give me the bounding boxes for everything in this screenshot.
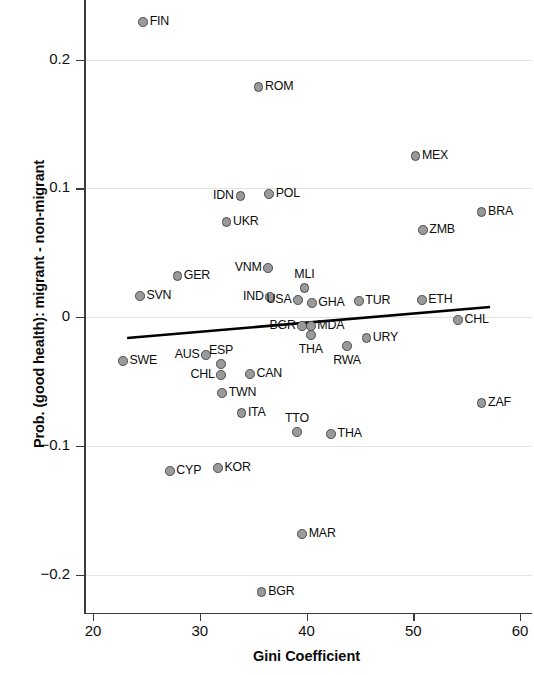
scatter-point bbox=[217, 388, 227, 398]
y-tick-label: −0.1 bbox=[0, 436, 70, 453]
scatter-point-label: KOR bbox=[224, 460, 250, 474]
scatter-point bbox=[362, 333, 372, 343]
scatter-point-label: TUR bbox=[365, 293, 390, 307]
scatter-point-label: AUS bbox=[175, 346, 200, 360]
x-axis-title: Gini Coefficient bbox=[93, 648, 520, 664]
y-axis-line bbox=[84, 0, 86, 614]
scatter-point-label: MEX bbox=[422, 148, 448, 162]
scatter-point-label: BRA bbox=[488, 203, 513, 217]
scatter-point bbox=[257, 587, 267, 597]
scatter-point-label: POL bbox=[276, 185, 300, 199]
scatter-point bbox=[453, 315, 463, 325]
scatter-point-label: CYP bbox=[176, 462, 201, 476]
scatter-point-label: IND bbox=[243, 289, 264, 303]
scatter-point-label: CHL bbox=[465, 311, 489, 325]
scatter-point bbox=[135, 291, 145, 301]
scatter-point bbox=[477, 207, 487, 217]
gridline bbox=[85, 446, 532, 447]
scatter-point-label: ROM bbox=[265, 79, 293, 93]
x-tick-mark bbox=[200, 613, 201, 621]
scatter-point-label: MLI bbox=[294, 267, 314, 281]
x-tick-mark bbox=[307, 613, 308, 621]
scatter-point bbox=[173, 271, 183, 281]
scatter-point bbox=[307, 298, 317, 308]
scatter-point-label: CAN bbox=[256, 366, 282, 380]
scatter-point-label: VNM bbox=[235, 259, 262, 273]
scatter-point-label: FIN bbox=[150, 14, 169, 28]
scatter-point-label: ESP bbox=[209, 343, 233, 357]
scatter-point-label: SWE bbox=[129, 353, 157, 367]
scatter-point bbox=[292, 427, 302, 437]
scatter-plot-figure: Prob. (good health): migrant - non-migra… bbox=[0, 0, 534, 675]
scatter-point bbox=[237, 408, 247, 418]
scatter-point-label: ZMB bbox=[429, 221, 455, 235]
y-tick-label: 0.2 bbox=[0, 50, 70, 67]
y-tick-label: 0 bbox=[0, 307, 70, 324]
x-axis-line bbox=[84, 613, 532, 615]
scatter-point-label: SVN bbox=[146, 288, 171, 302]
x-tick-mark bbox=[93, 613, 94, 621]
scatter-point bbox=[138, 17, 148, 27]
scatter-point bbox=[300, 283, 310, 293]
scatter-point-label: MDA bbox=[317, 318, 344, 332]
scatter-point-label: GHA bbox=[318, 294, 344, 308]
scatter-point-label: THA bbox=[338, 426, 362, 440]
scatter-point-label: MAR bbox=[309, 525, 336, 539]
y-tick-label: −0.2 bbox=[0, 565, 70, 582]
scatter-point bbox=[216, 359, 226, 369]
scatter-point-label: BGR bbox=[268, 584, 294, 598]
scatter-point bbox=[245, 369, 255, 379]
gridline bbox=[85, 188, 532, 189]
scatter-point bbox=[326, 429, 336, 439]
y-tick-label: 0.1 bbox=[0, 178, 70, 195]
x-tick-label: 60 bbox=[490, 622, 534, 639]
scatter-point bbox=[418, 225, 428, 235]
scatter-point bbox=[213, 463, 223, 473]
scatter-point bbox=[417, 295, 427, 305]
y-tick-mark bbox=[76, 60, 84, 61]
scatter-point-label: RWA bbox=[333, 353, 361, 367]
scatter-point bbox=[222, 217, 232, 227]
scatter-point-label: IDN bbox=[213, 187, 234, 201]
y-tick-mark bbox=[76, 188, 84, 189]
y-tick-mark bbox=[76, 317, 84, 318]
gridline bbox=[85, 60, 532, 61]
gridline bbox=[85, 575, 532, 576]
scatter-point-label: THA bbox=[299, 342, 323, 356]
scatter-point-label: TWN bbox=[229, 384, 257, 398]
scatter-point-label: URY bbox=[373, 329, 398, 343]
scatter-point-label: UKR bbox=[233, 213, 259, 227]
scatter-point bbox=[354, 296, 364, 306]
x-tick-label: 20 bbox=[63, 622, 123, 639]
scatter-point-label: CHL bbox=[190, 366, 214, 380]
x-tick-label: 50 bbox=[383, 622, 443, 639]
x-tick-label: 30 bbox=[170, 622, 230, 639]
y-tick-mark bbox=[76, 575, 84, 576]
scatter-point bbox=[263, 263, 273, 273]
y-tick-mark bbox=[76, 446, 84, 447]
scatter-point bbox=[264, 189, 274, 199]
scatter-point bbox=[342, 341, 352, 351]
scatter-point-label: BGR bbox=[269, 318, 295, 332]
scatter-point-label: ZAF bbox=[488, 395, 511, 409]
scatter-point bbox=[236, 191, 246, 201]
x-tick-mark bbox=[520, 613, 521, 621]
x-tick-label: 40 bbox=[277, 622, 337, 639]
scatter-point-label: USA bbox=[267, 292, 292, 306]
scatter-point bbox=[411, 151, 421, 161]
scatter-point bbox=[118, 356, 128, 366]
scatter-point-label: GER bbox=[184, 267, 210, 281]
scatter-point bbox=[306, 330, 316, 340]
x-tick-mark bbox=[413, 613, 414, 621]
scatter-point-label: ITA bbox=[248, 404, 266, 418]
scatter-point-label: ETH bbox=[428, 292, 452, 306]
scatter-point bbox=[216, 370, 226, 380]
scatter-point bbox=[165, 466, 175, 476]
scatter-point bbox=[254, 82, 264, 92]
scatter-point bbox=[477, 398, 487, 408]
scatter-point-label: TTO bbox=[285, 411, 309, 425]
scatter-point bbox=[297, 529, 307, 539]
scatter-point bbox=[293, 295, 303, 305]
